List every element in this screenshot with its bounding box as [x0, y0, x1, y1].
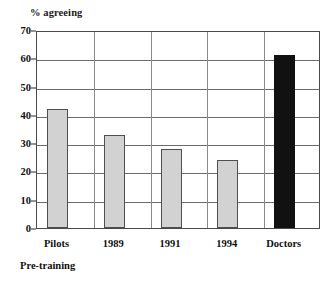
plot-area	[36, 31, 320, 229]
x-axis-tick-label: 1994	[216, 238, 237, 249]
gridline-vertical	[207, 32, 208, 228]
bar-1991	[161, 149, 182, 228]
pre-training-annotation: Pre-training	[20, 260, 75, 271]
bar-1989	[104, 135, 125, 228]
y-axis-title: % agreeing	[30, 7, 82, 18]
x-axis-tick-label: 1989	[103, 238, 124, 249]
bar-pilots	[47, 109, 68, 228]
bar-1994	[217, 160, 238, 228]
x-axis-tick-label: Pilots	[44, 238, 69, 249]
y-axis-tick-marks	[0, 31, 36, 229]
x-axis-tick-label: 1991	[160, 238, 181, 249]
gridline-vertical	[264, 32, 265, 228]
gridline-vertical	[151, 32, 152, 228]
x-axis-labels: Pilots198919911994Doctors	[36, 238, 320, 254]
bar-doctors	[274, 55, 295, 228]
x-axis-tick-label: Doctors	[266, 238, 301, 249]
gridline-vertical	[94, 32, 95, 228]
bar-chart-figure: % agreeing 706050403020100 Pilots1989199…	[0, 0, 336, 283]
